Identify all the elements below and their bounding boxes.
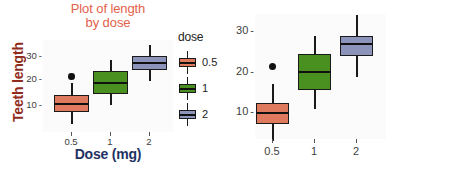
chart-right: 30- 20- 10- bbox=[228, 0, 461, 170]
whisker-upper bbox=[272, 84, 274, 103]
whisker-upper bbox=[356, 15, 358, 36]
whisker-upper bbox=[110, 60, 112, 71]
x-tick-2: 2 bbox=[341, 145, 371, 157]
whisker-upper bbox=[314, 36, 316, 54]
y-tick-30: 30- bbox=[6, 50, 42, 61]
chart-left: Plot of length by dose Teeth length 30- … bbox=[0, 0, 232, 170]
x-tick-0-5: 0.5 bbox=[257, 145, 287, 157]
outlier-point bbox=[269, 63, 276, 70]
y-tick-20: 20- bbox=[6, 73, 42, 84]
outlier-point bbox=[68, 73, 75, 80]
median-2 bbox=[132, 62, 167, 64]
legend-label-2: 2 bbox=[202, 108, 208, 120]
whisker-lower bbox=[110, 94, 112, 105]
whisker-lower bbox=[71, 112, 73, 124]
median-0-5 bbox=[54, 103, 89, 105]
whisker-lower bbox=[149, 70, 151, 81]
x-tickmark-0-5 bbox=[272, 139, 273, 143]
legend-item-2[interactable]: 2 bbox=[178, 101, 217, 127]
whisker-lower bbox=[314, 90, 316, 109]
y-tick-30: 30- bbox=[216, 24, 254, 36]
legend-label-1: 1 bbox=[202, 82, 208, 94]
y-tick-10: 10- bbox=[216, 105, 254, 117]
legend-item-1[interactable]: 1 bbox=[178, 75, 217, 101]
x-tickmark-1 bbox=[314, 139, 315, 143]
legend-key-1 bbox=[178, 76, 197, 100]
chart-pair-canvas: Plot of length by dose Teeth length 30- … bbox=[0, 0, 461, 170]
median-1 bbox=[93, 82, 128, 84]
legend-label-0-5: 0.5 bbox=[202, 56, 217, 68]
legend-item-0-5[interactable]: 0.5 bbox=[178, 49, 217, 75]
legend-left: dose 0.5 1 bbox=[178, 30, 217, 127]
x-tickmark-2 bbox=[356, 139, 357, 143]
median-0-5 bbox=[256, 112, 289, 114]
median-1 bbox=[298, 71, 331, 73]
legend-key-2 bbox=[178, 102, 197, 126]
median-2 bbox=[340, 43, 373, 45]
x-axis-label: Dose (mg) bbox=[43, 146, 173, 162]
y-tick-20: 20- bbox=[216, 65, 254, 77]
box-2 bbox=[340, 36, 373, 56]
legend-title: dose bbox=[178, 30, 217, 44]
whisker-upper bbox=[149, 45, 151, 56]
chart-title: Plot of length by dose bbox=[38, 2, 178, 29]
y-tick-10: 10- bbox=[6, 99, 42, 110]
legend-key-0-5 bbox=[178, 50, 197, 74]
whisker-upper bbox=[71, 83, 73, 95]
whisker-lower bbox=[356, 56, 358, 77]
x-tick-1: 1 bbox=[299, 145, 329, 157]
